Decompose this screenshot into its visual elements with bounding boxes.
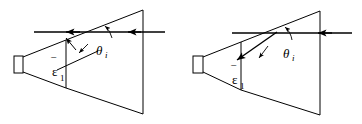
permittivity-subscript-right: 1 [240,81,245,91]
figure-container: ε ‾ 1 θ i [0,0,362,124]
permittivity-subscript-left: 1 [60,73,65,83]
outer-horn-top-edge-right [241,11,320,42]
permittivity-overbar-right: ‾ [231,63,237,78]
diagram-svg: ε ‾ 1 θ i [0,0,362,124]
angle-tick-left [79,44,88,53]
right-diagram: ε ‾ 1 θ i [193,11,352,115]
outer-horn-bottom-edge-left [66,88,143,114]
permittivity-vector-head-left [66,38,76,50]
angle-tick-right [259,46,268,58]
outer-horn-top-edge-left [66,10,143,40]
angle-subscript-left: i [105,50,108,60]
feed-waveguide-rect-left [14,56,23,73]
inner-horn-top-edge-left [23,40,66,57]
angle-symbol-right: θ [283,46,290,61]
permittivity-label-left: ε ‾ 1 [51,55,65,83]
permittivity-overbar-left: ‾ [51,55,57,70]
angle-label-left: θ i [96,43,108,60]
inner-horn-top-edge-right [203,42,241,57]
permittivity-label-right: ε ‾ 1 [231,63,245,91]
angle-label-right: θ i [283,46,295,63]
angle-subscript-right: i [292,53,295,63]
outer-horn-bottom-edge-right [241,90,320,115]
left-diagram: ε ‾ 1 θ i [14,10,165,114]
feed-waveguide-rect-right [193,56,203,73]
angle-symbol-left: θ [96,43,103,58]
permittivity-vector-arrow-left [57,51,98,70]
